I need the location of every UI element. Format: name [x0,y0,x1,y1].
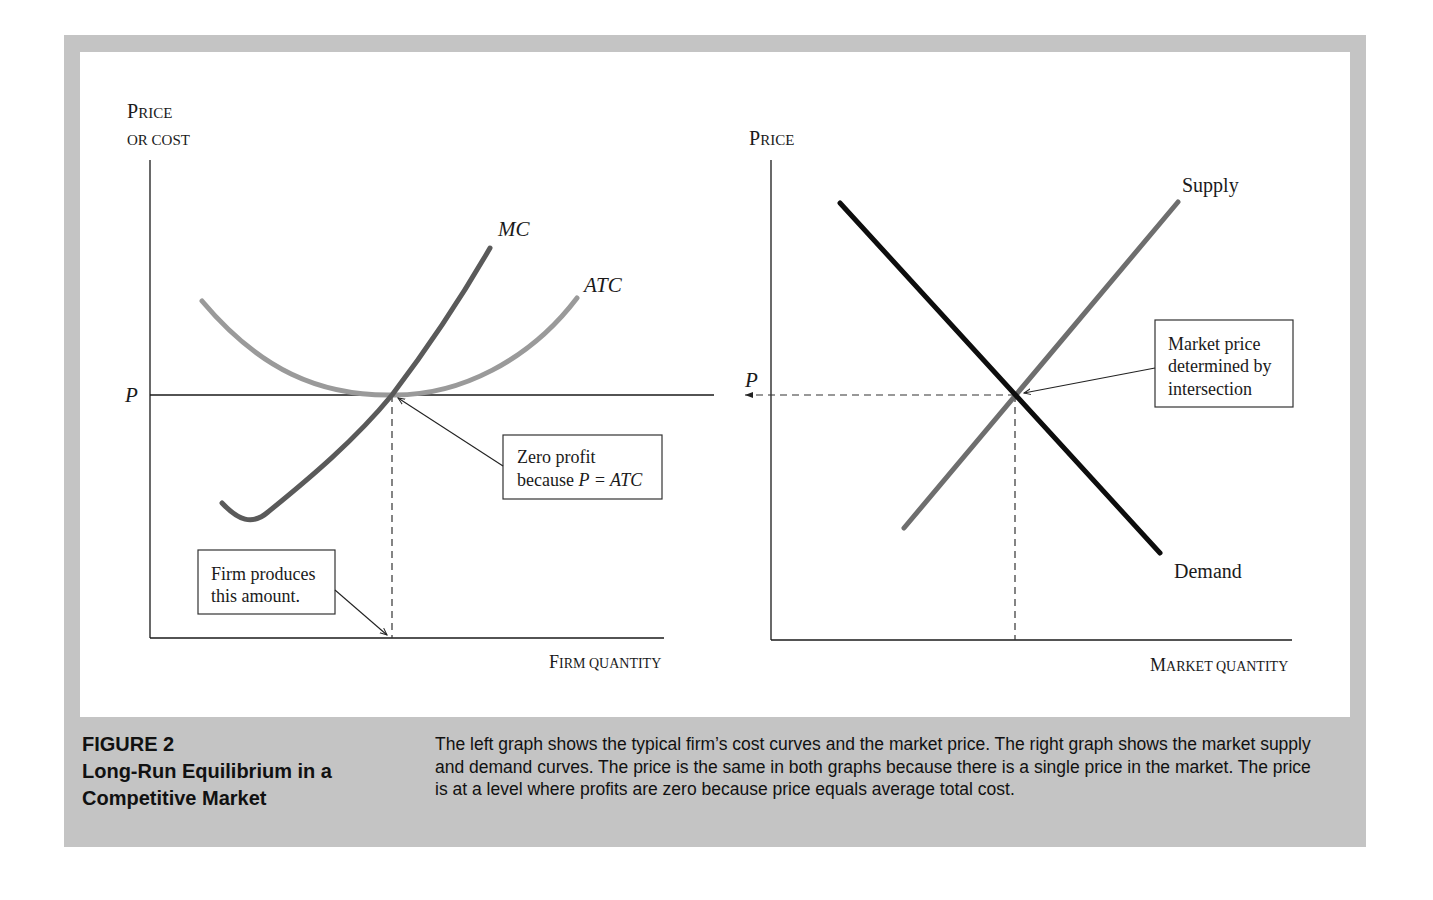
supply-label: Supply [1182,174,1239,197]
zero-profit-annotation-line2: because P = ATC [517,470,643,490]
left-graph: PRICE OR COST P MC ATC Zero profit becau… [124,100,714,672]
left-y-axis-label: PRICE [127,100,172,122]
firm-produces-annotation-line2: this amount. [211,586,300,606]
firm-produces-pointer [335,590,387,635]
figure-title-line2: Competitive Market [82,785,412,812]
market-price-annotation-line3: intersection [1168,379,1252,399]
figure-title-line1: Long-Run Equilibrium in a [82,758,412,785]
supply-curve [904,202,1178,528]
right-y-axis-label: PRICE [749,127,794,149]
left-price-tick-label: P [124,383,138,407]
right-graph: PRICE P Supply Demand Market price deter… [744,127,1293,675]
mc-label: MC [497,217,530,241]
demand-label: Demand [1174,560,1242,582]
atc-label: ATC [582,273,623,297]
figure-caption-text: The left graph shows the typical firm’s … [435,733,1325,801]
right-price-tick-label: P [744,368,758,392]
market-price-annotation-line2: determined by [1168,356,1271,376]
zero-profit-pointer [398,398,503,466]
left-y-axis-label-line2: OR COST [127,132,190,148]
firm-produces-annotation-line1: Firm produces [211,564,315,584]
figure-number: FIGURE 2 [82,731,412,758]
zero-profit-annotation-line1: Zero profit [517,447,595,467]
right-x-axis-label: MARKET QUANTITY [1150,655,1288,675]
figure-caption-title: FIGURE 2 Long-Run Equilibrium in a Compe… [82,731,412,812]
market-price-pointer [1024,368,1155,393]
mc-curve [222,248,490,520]
market-price-annotation-line1: Market price [1168,334,1260,354]
demand-curve [840,203,1160,553]
atc-curve [202,298,577,395]
left-x-axis-label: FIRM QUANTITY [549,652,661,672]
